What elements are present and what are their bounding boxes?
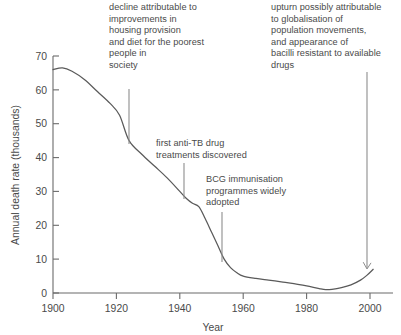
annotation-bcg-immunisation: BCG immunisation programmes widely adopt…: [206, 174, 318, 209]
y-tick-label-50: 50: [35, 118, 47, 129]
y-tick-label-10: 10: [35, 254, 47, 265]
y-tick-label-40: 40: [35, 152, 47, 163]
x-tick-label-1900: 1900: [41, 303, 64, 314]
y-tick-label-60: 60: [35, 85, 47, 96]
x-tick-label-1940: 1940: [168, 303, 191, 314]
x-tick-label-1960: 1960: [232, 303, 255, 314]
x-ticks-group: [53, 293, 370, 299]
annotation-upturn-globalisation: upturn possibly attributable to globalis…: [271, 2, 401, 72]
y-axis-title: Annual death rate (thousands): [10, 105, 21, 245]
annotation-first-anti-tb-drug: first anti-TB drug treatments discovered: [156, 138, 272, 161]
y-tick-label-70: 70: [35, 51, 47, 62]
annotation-leaders-group: [129, 72, 371, 269]
y-tick-label-0: 0: [41, 288, 47, 299]
y-tick-label-20: 20: [35, 220, 47, 231]
y-ticks-group: [53, 56, 59, 293]
x-tick-label-1920: 1920: [105, 303, 128, 314]
tb-death-rate-chart: 70 60 50 40 30 20 10 0 1900 1920 1940 19…: [0, 0, 401, 335]
x-tick-label-1980: 1980: [295, 303, 318, 314]
annotation-housing-decline: decline attributable to improvements in …: [109, 2, 229, 72]
x-tick-label-2000: 2000: [358, 303, 381, 314]
x-tick-labels-group: 1900 1920 1940 1960 1980 2000: [41, 303, 381, 314]
y-tick-labels-group: 70 60 50 40 30 20 10 0: [35, 51, 47, 299]
y-tick-label-30: 30: [35, 186, 47, 197]
x-axis-title: Year: [203, 322, 225, 333]
